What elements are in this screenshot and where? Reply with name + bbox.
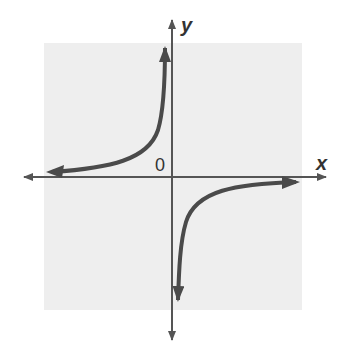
x-axis-label: x bbox=[315, 152, 328, 174]
y-axis-label: y bbox=[180, 14, 193, 36]
coordinate-graph: y x 0 bbox=[0, 0, 346, 360]
origin-label: 0 bbox=[155, 155, 165, 175]
